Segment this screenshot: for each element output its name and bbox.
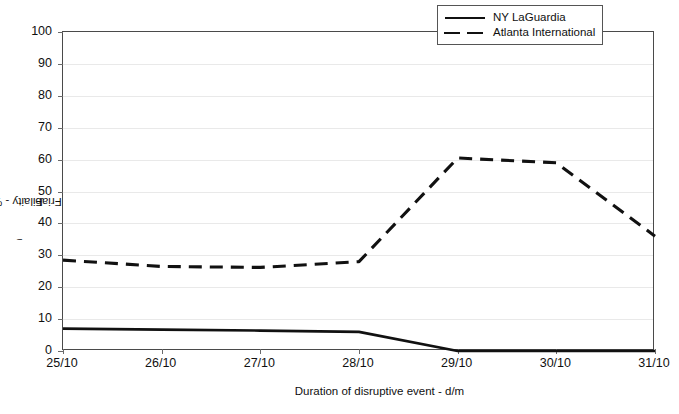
y-axis-tick-label: 30: [6, 248, 52, 260]
x-axis-tick-labels: 25/1026/1027/1028/1029/1030/1031/10: [62, 356, 654, 376]
line-chart: Fi - Friabilaity - % 0102030405060708090…: [0, 0, 679, 414]
x-axis-title: Duration of disruptive event - d/m: [0, 385, 679, 397]
x-axis-tick-label: 30/10: [540, 356, 571, 370]
y-axis-tick-label: 10: [6, 312, 52, 324]
series-line-atlanta-international: [63, 158, 655, 267]
legend-item-ny-laguardia: NY LaGuardia: [443, 10, 595, 25]
legend: NY LaGuardia Atlanta International: [437, 5, 603, 45]
y-axis-tick-label: 70: [6, 121, 52, 133]
legend-label-ny-laguardia: NY LaGuardia: [493, 11, 566, 24]
series-line-ny-laguardia: [63, 329, 655, 351]
legend-label-atlanta-international: Atlanta International: [493, 26, 595, 39]
x-axis-tick-label: 29/10: [441, 356, 472, 370]
series-layer: [63, 32, 655, 351]
y-axis-tick-label: 100: [6, 25, 52, 37]
legend-swatch-solid-icon: [443, 12, 487, 24]
x-axis-tick-label: 25/10: [46, 356, 77, 370]
x-axis-tick: [655, 349, 656, 354]
x-axis-tick-label: 28/10: [342, 356, 373, 370]
legend-swatch-dashed-icon: [443, 27, 487, 39]
legend-item-atlanta-international: Atlanta International: [443, 25, 595, 40]
y-axis-tick-label: 60: [6, 153, 52, 165]
y-axis-tick-label: 0: [6, 344, 52, 356]
y-axis-tick-label: 80: [6, 89, 52, 101]
plot-area: [62, 31, 654, 350]
x-axis-tick-label: 31/10: [638, 356, 669, 370]
y-axis-tick-labels: 0102030405060708090100: [0, 31, 56, 350]
y-axis-tick-label: 90: [6, 57, 52, 69]
x-axis-tick-label: 27/10: [244, 356, 275, 370]
y-axis-tick-label: 50: [6, 185, 52, 197]
y-axis-tick-label: 40: [6, 216, 52, 228]
y-axis-tick-label: 20: [6, 280, 52, 292]
x-axis-tick-label: 26/10: [145, 356, 176, 370]
